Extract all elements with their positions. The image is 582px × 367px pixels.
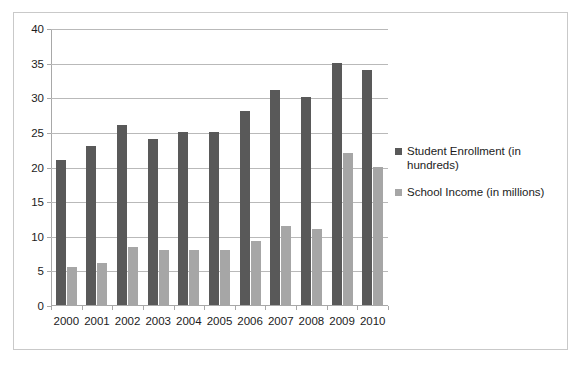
x-tick-mark (143, 306, 144, 310)
x-tick-mark (357, 306, 358, 310)
bar (343, 153, 353, 305)
bar (148, 139, 158, 305)
bar (97, 263, 107, 305)
bar (240, 111, 250, 305)
x-tick-label: 2002 (115, 315, 141, 327)
bar (270, 90, 280, 305)
y-tick-label: 15 (31, 196, 44, 208)
y-tick-mark (47, 64, 51, 65)
y-tick-label: 10 (31, 231, 44, 243)
legend-entry[interactable]: Student Enrollment (in hundreds) (395, 144, 555, 172)
bar (178, 132, 188, 305)
y-tick-label: 40 (31, 23, 44, 35)
y-tick-label: 30 (31, 92, 44, 104)
plot-area: 0510152025303540 20002001200220032004200… (51, 29, 388, 306)
x-tick-label: 2000 (54, 315, 80, 327)
x-tick-mark (112, 306, 113, 310)
x-tick-label: 2001 (84, 315, 110, 327)
y-tick-mark (47, 271, 51, 272)
legend-label: Student Enrollment (in hundreds) (407, 144, 555, 172)
bar (332, 63, 342, 305)
bar (117, 125, 127, 305)
bar (67, 267, 77, 305)
x-tick-mark (327, 306, 328, 310)
legend-label: School Income (in millions) (407, 185, 544, 199)
x-tick-mark (174, 306, 175, 310)
y-tick-label: 35 (31, 58, 44, 70)
bar (362, 70, 372, 305)
x-tick-mark (82, 306, 83, 310)
x-tick-label: 2005 (207, 315, 233, 327)
x-tick-mark (296, 306, 297, 310)
bar (209, 132, 219, 305)
bar (301, 97, 311, 305)
legend-swatch-icon (395, 148, 402, 155)
x-tick-label: 2006 (237, 315, 263, 327)
x-tick-label: 2010 (360, 315, 386, 327)
y-tick-label: 5 (38, 265, 44, 277)
y-tick-mark (47, 202, 51, 203)
x-tick-label: 2003 (145, 315, 171, 327)
y-tick-mark (47, 98, 51, 99)
x-tick-label: 2008 (299, 315, 325, 327)
x-tick-mark (51, 306, 52, 310)
x-tick-mark (388, 306, 389, 310)
x-tick-label: 2007 (268, 315, 294, 327)
y-tick-mark (47, 237, 51, 238)
x-tick-label: 2004 (176, 315, 202, 327)
legend-swatch-icon (395, 189, 402, 196)
x-tick-mark (265, 306, 266, 310)
bar (128, 247, 138, 305)
bar (373, 167, 383, 306)
y-tick-label: 20 (31, 162, 44, 174)
y-tick-mark (47, 29, 51, 30)
x-tick-mark (204, 306, 205, 310)
bar (220, 250, 230, 305)
y-tick-label: 0 (38, 300, 44, 312)
y-tick-label: 25 (31, 127, 44, 139)
gridline (51, 29, 388, 30)
chart-legend: Student Enrollment (in hundreds)School I… (395, 144, 555, 212)
legend-entry[interactable]: School Income (in millions) (395, 185, 555, 199)
x-axis-line (51, 305, 388, 306)
bar (281, 226, 291, 305)
y-tick-mark (47, 168, 51, 169)
bar (189, 250, 199, 305)
bar (56, 160, 66, 305)
bar (86, 146, 96, 305)
x-tick-label: 2009 (329, 315, 355, 327)
x-tick-mark (235, 306, 236, 310)
bar (312, 229, 322, 305)
bar (251, 241, 261, 305)
bar (159, 250, 169, 305)
y-tick-mark (47, 133, 51, 134)
